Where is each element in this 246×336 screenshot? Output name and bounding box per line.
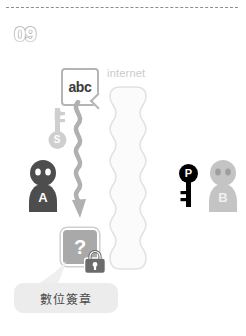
internet-channel	[104, 85, 152, 280]
key-label-s: S	[48, 131, 66, 149]
internet-label: internet	[107, 68, 145, 79]
person-icon-a: A	[23, 160, 63, 212]
key-icon-signing: F S	[48, 108, 72, 152]
person-icon-b: B	[203, 160, 243, 212]
header-divider	[6, 7, 238, 8]
person-a-label: A	[23, 191, 63, 204]
key-icon-public: P	[179, 164, 201, 210]
callout-text: 數位簽章	[14, 283, 118, 313]
callout-digital-signature: 數位簽章	[14, 277, 118, 313]
key-label-f: F	[54, 110, 61, 122]
person-b-label: B	[203, 191, 243, 204]
key-label-p: P	[179, 164, 198, 183]
slide-number: 09	[14, 23, 35, 44]
padlock-icon	[84, 250, 106, 274]
